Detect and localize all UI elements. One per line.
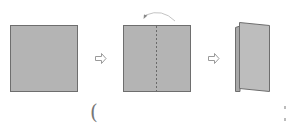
next-step-arrow-icon [209, 54, 220, 64]
edge-marks [283, 104, 287, 124]
step-2-square-with-fold-line [124, 26, 191, 92]
step-1-square-sheet [11, 26, 78, 92]
folding-diagram: ( [0, 0, 287, 131]
partial-parenthesis-text: ( [90, 100, 98, 124]
next-step-arrow-icon [96, 54, 107, 64]
curved-fold-arrow-icon [144, 13, 176, 21]
step-3-folded-card [236, 23, 270, 92]
